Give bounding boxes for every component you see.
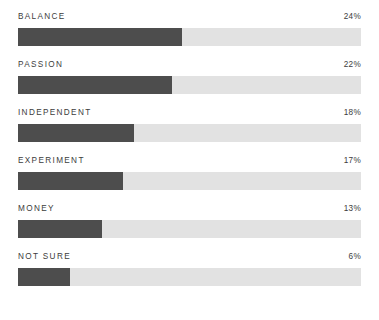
bar-value-label: 17% bbox=[344, 154, 361, 168]
bar-fill bbox=[18, 172, 123, 190]
bar-track bbox=[18, 220, 361, 238]
bar-value-label: 18% bbox=[344, 106, 361, 120]
bar-label: EXPERIMENT bbox=[18, 154, 85, 168]
bar-fill bbox=[18, 76, 172, 94]
bar-row-header: INDEPENDENT 18% bbox=[18, 106, 361, 120]
bar-row: BALANCE 24% bbox=[18, 10, 361, 58]
bar-row-header: BALANCE 24% bbox=[18, 10, 361, 24]
bar-value-label: 22% bbox=[344, 58, 361, 72]
bar-track bbox=[18, 124, 361, 142]
bar-row: EXPERIMENT 17% bbox=[18, 154, 361, 202]
bar-row-header: PASSION 22% bbox=[18, 58, 361, 72]
bar-fill bbox=[18, 28, 182, 46]
bar-row-header: NOT SURE 6% bbox=[18, 250, 361, 264]
bar-row: PASSION 22% bbox=[18, 58, 361, 106]
bar-fill bbox=[18, 268, 70, 286]
bar-row: MONEY 13% bbox=[18, 202, 361, 250]
bar-track bbox=[18, 172, 361, 190]
horizontal-bar-chart: BALANCE 24% PASSION 22% INDEPENDENT 18% … bbox=[0, 0, 379, 320]
bar-track bbox=[18, 268, 361, 286]
bar-label: INDEPENDENT bbox=[18, 106, 92, 120]
bar-value-label: 13% bbox=[344, 202, 361, 216]
bar-value-label: 6% bbox=[349, 250, 361, 264]
bar-row-header: MONEY 13% bbox=[18, 202, 361, 216]
bar-label: PASSION bbox=[18, 58, 63, 72]
bar-label: NOT SURE bbox=[18, 250, 71, 264]
bar-track bbox=[18, 76, 361, 94]
bar-row: INDEPENDENT 18% bbox=[18, 106, 361, 154]
bar-row-header: EXPERIMENT 17% bbox=[18, 154, 361, 168]
bar-fill bbox=[18, 124, 134, 142]
bar-row: NOT SURE 6% bbox=[18, 250, 361, 298]
bar-fill bbox=[18, 220, 102, 238]
bar-track bbox=[18, 28, 361, 46]
bar-value-label: 24% bbox=[344, 10, 361, 24]
bar-label: BALANCE bbox=[18, 10, 66, 24]
bar-label: MONEY bbox=[18, 202, 55, 216]
